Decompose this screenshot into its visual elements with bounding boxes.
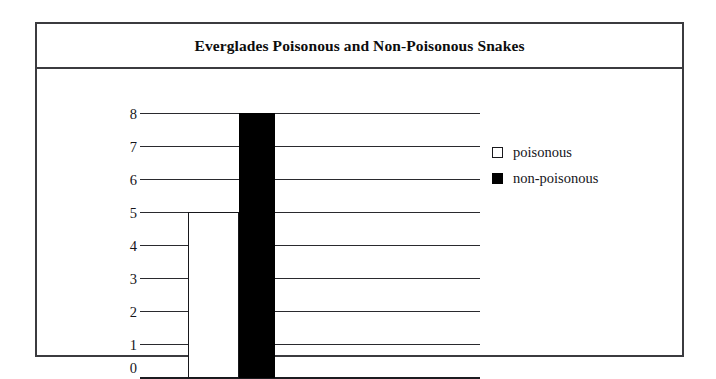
y-tick-4: 4 (107, 239, 137, 254)
bar-group (140, 69, 480, 355)
y-tick-5: 5 (107, 206, 137, 221)
chart-title-band: Everglades Poisonous and Non-Poisonous S… (37, 24, 682, 69)
y-tick-2: 2 (107, 305, 137, 320)
bar-poisonous[interactable] (188, 212, 239, 378)
y-tick-3: 3 (107, 272, 137, 287)
plot-region: 8 7 6 5 4 3 2 1 0 (37, 69, 682, 355)
black-square-icon (492, 173, 503, 184)
legend-item-poisonous[interactable]: poisonous (492, 139, 672, 165)
y-tick-8: 8 (107, 107, 137, 122)
y-axis: 8 7 6 5 4 3 2 1 0 (105, 69, 137, 355)
legend-item-non-poisonous[interactable]: non-poisonous (492, 165, 672, 191)
white-square-icon (492, 147, 503, 158)
y-tick-7: 7 (107, 140, 137, 155)
bar-non-poisonous[interactable] (239, 113, 275, 378)
chart-title: Everglades Poisonous and Non-Poisonous S… (194, 37, 524, 55)
y-tick-0: 0 (107, 361, 137, 376)
y-tick-1: 1 (107, 338, 137, 353)
legend-label-poisonous: poisonous (513, 144, 572, 161)
chart-frame: Everglades Poisonous and Non-Poisonous S… (35, 22, 684, 357)
y-tick-6: 6 (107, 173, 137, 188)
legend: poisonous non-poisonous (492, 139, 672, 191)
legend-label-non-poisonous: non-poisonous (513, 170, 598, 187)
